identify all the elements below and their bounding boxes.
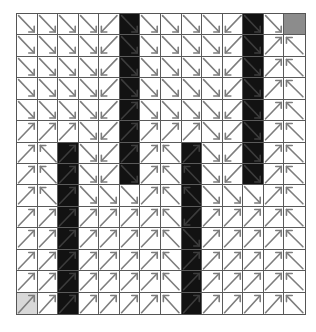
policy-cell	[161, 14, 182, 35]
arrow-up-right-icon	[140, 143, 160, 163]
policy-cell	[99, 100, 120, 121]
wall-cell	[243, 143, 264, 164]
policy-cell	[38, 250, 59, 271]
arrow-down-right-icon	[38, 100, 58, 120]
policy-cell	[140, 185, 161, 206]
policy-cell	[120, 228, 141, 249]
policy-cell	[17, 250, 38, 271]
policy-cell	[17, 164, 38, 185]
arrow-up-right-icon	[99, 228, 119, 248]
arrow-up-right-icon	[38, 207, 58, 227]
arrow-up-right-icon	[17, 121, 37, 141]
arrow-up-right-icon	[264, 121, 284, 141]
arrow-up-left-icon	[38, 185, 58, 205]
policy-cell	[161, 293, 182, 314]
arrow-down-right-icon	[202, 185, 222, 205]
wall-cell	[58, 207, 79, 228]
arrow-up-right-icon	[17, 250, 37, 270]
wall-cell	[243, 78, 264, 99]
arrow-down-right-icon	[140, 78, 160, 98]
arrow-up-right-icon	[223, 293, 243, 314]
arrow-down-right-icon	[17, 100, 37, 120]
arrow-up-right-icon	[79, 293, 99, 314]
arrow-down-left-icon	[99, 121, 119, 141]
policy-cell	[79, 14, 100, 35]
arrow-down-left-icon	[223, 78, 243, 98]
policy-cell	[284, 228, 305, 249]
policy-cell	[99, 293, 120, 314]
arrow-up-right-icon	[182, 143, 202, 163]
wall-cell	[243, 164, 264, 185]
arrow-up-left-icon	[284, 228, 305, 248]
policy-cell	[99, 164, 120, 185]
arrow-down-right-icon	[58, 57, 78, 77]
wall-cell	[58, 164, 79, 185]
arrow-down-left-icon	[99, 100, 119, 120]
policy-cell	[120, 250, 141, 271]
policy-cell	[223, 271, 244, 292]
arrow-down-left-icon	[223, 121, 243, 141]
policy-cell	[284, 164, 305, 185]
policy-cell	[17, 14, 38, 35]
arrow-up-left-icon	[38, 164, 58, 184]
policy-cell	[120, 185, 141, 206]
arrow-up-right-icon	[223, 271, 243, 291]
arrow-up-right-icon	[79, 271, 99, 291]
policy-cell	[17, 121, 38, 142]
arrow-up-right-icon	[58, 164, 78, 184]
arrow-up-right-icon	[264, 271, 284, 291]
wall-cell	[58, 185, 79, 206]
arrow-down-right-icon	[120, 185, 140, 205]
policy-cell	[264, 250, 285, 271]
arrow-down-right-icon	[202, 164, 222, 184]
arrow-down-right-icon	[38, 35, 58, 55]
arrow-up-right-icon	[140, 228, 160, 248]
wall-cell	[120, 143, 141, 164]
policy-cell	[223, 250, 244, 271]
policy-cell	[99, 185, 120, 206]
arrow-down-left-icon	[99, 164, 119, 184]
arrow-up-left-icon	[284, 185, 305, 205]
arrow-up-right-icon	[264, 78, 284, 98]
policy-cell	[182, 35, 203, 56]
wall-cell	[182, 293, 203, 314]
policy-cell	[99, 271, 120, 292]
arrow-down-right-icon	[243, 164, 263, 184]
arrow-down-left-icon	[99, 35, 119, 55]
arrow-up-right-icon	[17, 164, 37, 184]
policy-cell	[161, 35, 182, 56]
arrow-up-right-icon	[140, 271, 160, 291]
policy-cell	[140, 271, 161, 292]
arrow-up-right-icon	[202, 228, 222, 248]
arrow-up-right-icon	[120, 100, 140, 120]
policy-cell	[17, 57, 38, 78]
policy-cell	[243, 271, 264, 292]
policy-cell	[284, 271, 305, 292]
policy-cell	[161, 100, 182, 121]
policy-cell	[202, 207, 223, 228]
policy-cell	[58, 121, 79, 142]
arrow-up-right-icon	[38, 121, 58, 141]
policy-cell	[264, 293, 285, 314]
policy-cell	[284, 35, 305, 56]
start-cell	[17, 293, 38, 314]
wall-cell	[58, 143, 79, 164]
arrow-up-right-icon	[79, 250, 99, 270]
policy-cell	[99, 121, 120, 142]
policy-cell	[79, 57, 100, 78]
policy-cell	[79, 185, 100, 206]
policy-cell	[140, 14, 161, 35]
policy-cell	[284, 293, 305, 314]
policy-cell	[140, 293, 161, 314]
arrow-up-right-icon	[58, 121, 78, 141]
arrow-down-left-icon	[99, 143, 119, 163]
arrow-up-right-icon	[17, 143, 37, 163]
policy-cell	[140, 35, 161, 56]
policy-cell	[223, 164, 244, 185]
arrow-down-right-icon	[161, 78, 181, 98]
arrow-up-right-icon	[58, 271, 78, 291]
arrow-down-right-icon	[17, 14, 37, 34]
policy-cell	[58, 78, 79, 99]
arrow-up-left-icon	[182, 164, 202, 184]
arrow-up-left-icon	[182, 185, 202, 205]
